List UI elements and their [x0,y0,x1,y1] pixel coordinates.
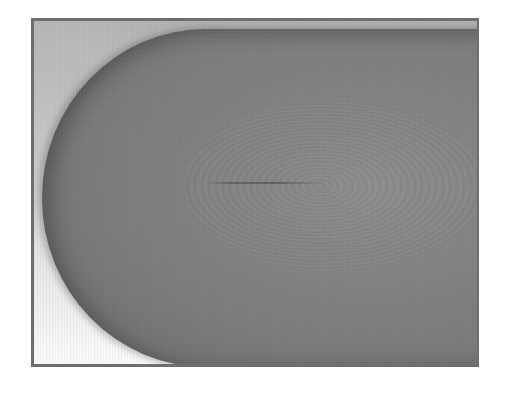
rounded-object [42,29,479,367]
canvas [0,0,507,412]
photo-frame [31,18,479,367]
surface-crack-line [206,182,326,184]
